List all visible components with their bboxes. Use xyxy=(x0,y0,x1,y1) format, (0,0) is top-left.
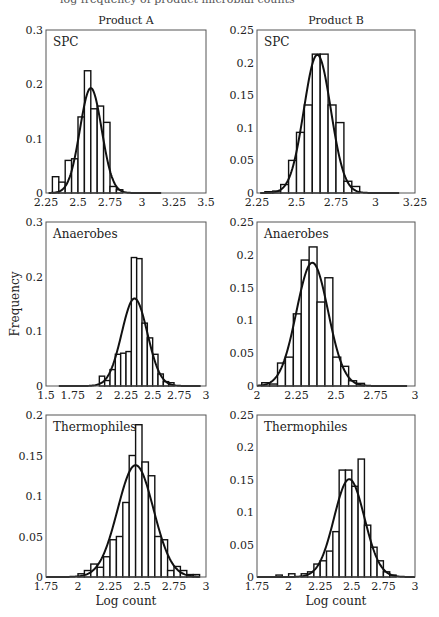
x-tick-label: 3 xyxy=(412,389,419,402)
y-tick-label: 0 xyxy=(247,187,254,200)
x-tick-label: 3 xyxy=(203,580,210,593)
histogram-bar xyxy=(317,302,325,386)
y-tick-label: 0.3 xyxy=(26,216,44,229)
y-tick-label: 0.05 xyxy=(230,154,255,167)
histogram-panel: 1.7522.252.52.75300.050.10.150.20.25Ther… xyxy=(230,409,419,608)
panel-label: SPC xyxy=(53,35,78,49)
histogram-bar xyxy=(136,425,142,577)
x-tick-label: 2.75 xyxy=(371,580,396,593)
histogram-bar xyxy=(115,354,120,386)
y-tick-label: 0.05 xyxy=(230,347,255,360)
y-tick-label: 0 xyxy=(36,187,43,200)
histogram-figure: 2.252.52.7533.253.500.10.20.3SPCProduct … xyxy=(0,0,439,617)
y-tick-label: 0.15 xyxy=(230,474,255,487)
histogram-panel: 1.51.7522.252.52.75300.10.20.3AnaerobesF… xyxy=(8,216,210,402)
y-tick-label: 0.1 xyxy=(26,325,44,338)
x-tick-label: 2.75 xyxy=(162,580,187,593)
y-tick-label: 0.2 xyxy=(26,271,44,284)
x-tick-label: 3.5 xyxy=(197,196,215,209)
histogram-bar xyxy=(116,537,122,578)
y-tick-label: 0.15 xyxy=(19,450,44,463)
x-tick-label: 2 xyxy=(254,389,261,402)
histogram-bar xyxy=(126,352,131,386)
y-tick-label: 0.2 xyxy=(237,57,255,70)
x-tick-label: 2.5 xyxy=(144,389,162,402)
panel-label: SPC xyxy=(264,35,289,49)
histogram-bar xyxy=(301,260,309,386)
x-tick-label: 2 xyxy=(96,389,103,402)
y-tick-label: 0 xyxy=(36,571,43,584)
x-tick-label: 2.75 xyxy=(363,389,388,402)
x-tick-label: 2.75 xyxy=(324,196,349,209)
y-tick-label: 0.15 xyxy=(230,282,255,295)
y-tick-label: 0.05 xyxy=(19,531,44,544)
histogram-bar xyxy=(97,567,103,577)
histogram-panel: 1.7522.252.52.75300.050.10.150.2Thermoph… xyxy=(19,409,210,608)
x-tick-label: 3 xyxy=(203,389,210,402)
x-tick-label: 2.25 xyxy=(98,580,123,593)
x-tick-label: 2.5 xyxy=(133,580,151,593)
histogram-panel: 22.252.52.75300.050.10.150.20.25Anaerobe… xyxy=(230,216,419,402)
panel-label: Anaerobes xyxy=(52,227,118,241)
y-tick-label: 0 xyxy=(36,380,43,393)
histogram-bar xyxy=(131,258,136,386)
histogram-bar xyxy=(168,571,174,577)
x-tick-label: 2 xyxy=(75,580,82,593)
histogram-bar xyxy=(52,177,58,193)
histogram-panel: 2.252.52.7533.2500.050.10.150.20.25SPCPr… xyxy=(230,14,428,209)
histogram-bar xyxy=(333,532,339,577)
y-tick-label: 0.3 xyxy=(26,24,44,37)
x-tick-label: 3.25 xyxy=(162,196,187,209)
panel-label: Thermophiles xyxy=(264,420,348,434)
y-tick-label: 0.05 xyxy=(230,539,255,552)
histogram-bar xyxy=(345,470,351,577)
histogram-bar xyxy=(285,357,293,386)
histogram-bar xyxy=(137,259,142,386)
histogram-bar xyxy=(110,186,116,193)
histogram-bar xyxy=(358,459,364,577)
histogram-bar xyxy=(327,551,333,577)
x-axis-label: Log count xyxy=(306,594,367,608)
x-tick-label: 2.5 xyxy=(343,580,361,593)
x-tick-label: 2.25 xyxy=(284,389,309,402)
y-tick-label: 0.2 xyxy=(26,78,44,91)
column-title: Product A xyxy=(98,14,154,27)
y-tick-label: 0.1 xyxy=(237,506,255,519)
x-tick-label: 3 xyxy=(412,580,419,593)
x-tick-label: 3.25 xyxy=(403,196,428,209)
panel-label: Thermophiles xyxy=(53,420,137,434)
panel-label: Anaerobes xyxy=(263,227,329,241)
x-tick-label: 2 xyxy=(285,580,292,593)
histogram-bar xyxy=(304,105,312,193)
histogram-bar xyxy=(91,109,97,193)
y-tick-label: 0.2 xyxy=(26,409,44,422)
histogram-bar xyxy=(110,540,116,577)
y-tick-label: 0.15 xyxy=(230,89,255,102)
x-tick-label: 1.75 xyxy=(60,389,85,402)
x-tick-label: 2.5 xyxy=(69,196,87,209)
histogram-bar xyxy=(129,456,135,578)
x-tick-label: 2.25 xyxy=(114,389,139,402)
y-tick-label: 0.25 xyxy=(230,24,255,37)
histogram-bar xyxy=(123,502,129,577)
x-axis-label: Log count xyxy=(96,594,157,608)
histogram-bar xyxy=(78,117,84,193)
x-tick-label: 2.75 xyxy=(167,389,192,402)
x-tick-label: 2.5 xyxy=(288,196,306,209)
histogram-bar xyxy=(104,557,110,577)
y-tick-label: 0.1 xyxy=(237,122,255,135)
x-tick-label: 2.75 xyxy=(98,196,123,209)
y-tick-label: 0.1 xyxy=(26,490,44,503)
y-tick-label: 0.25 xyxy=(230,216,255,229)
histogram-bar xyxy=(333,357,341,386)
x-tick-label: 3 xyxy=(372,196,379,209)
histogram-bar xyxy=(121,353,126,386)
y-tick-label: 0.2 xyxy=(237,249,255,262)
y-tick-label: 0.1 xyxy=(26,133,44,146)
x-tick-label: 2.5 xyxy=(327,389,345,402)
histogram-panel: 2.252.52.7533.253.500.10.20.3SPCProduct … xyxy=(26,14,215,209)
histogram-bar xyxy=(155,537,161,578)
y-tick-label: 0 xyxy=(247,571,254,584)
histogram-bar xyxy=(105,381,110,386)
y-tick-label: 0.2 xyxy=(237,441,255,454)
